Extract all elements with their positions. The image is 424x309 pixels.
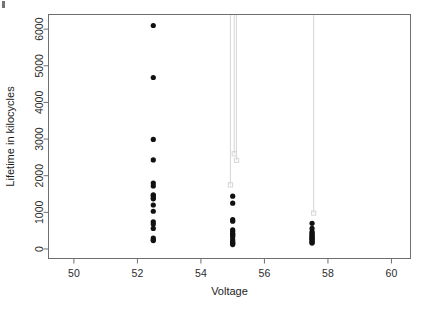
x-tick-label: 52 — [132, 267, 144, 279]
failure-series — [151, 23, 315, 247]
x-tick-label: 54 — [195, 267, 207, 279]
data-point — [151, 23, 156, 28]
x-tick-label: 56 — [259, 267, 271, 279]
data-point — [151, 238, 156, 243]
y-tick-label: 3000 — [33, 127, 45, 151]
data-point — [230, 201, 235, 206]
y-tick-label: 1000 — [33, 201, 45, 225]
data-point — [151, 183, 156, 188]
data-point — [230, 219, 235, 224]
corner-artifact — [2, 1, 5, 8]
x-axis-title: Voltage — [211, 285, 248, 297]
y-tick-label: 6000 — [33, 17, 45, 41]
y-axis-title: Lifetime in kilocycles — [4, 86, 16, 187]
data-point — [230, 194, 235, 199]
data-point — [309, 221, 314, 226]
data-point — [151, 196, 156, 201]
x-axis: 505254565860Voltage — [68, 259, 397, 297]
data-point — [151, 137, 156, 142]
data-point — [151, 202, 156, 207]
data-point — [151, 75, 156, 80]
y-tick-label: 5000 — [33, 54, 45, 78]
censored-series — [228, 15, 315, 216]
y-axis: 0100020003000400050006000Lifetime in kil… — [4, 17, 49, 252]
data-point — [151, 209, 156, 214]
data-point — [151, 157, 156, 162]
y-tick-label: 2000 — [33, 164, 45, 188]
data-point — [230, 242, 235, 247]
plot-frame — [49, 15, 411, 259]
y-tick-label: 4000 — [33, 91, 45, 115]
x-tick-label: 50 — [68, 267, 80, 279]
x-tick-label: 60 — [386, 267, 398, 279]
x-tick-label: 58 — [322, 267, 334, 279]
data-point — [151, 226, 156, 231]
data-point — [309, 241, 314, 246]
plot-canvas: 505254565860Voltage010002000300040005000… — [0, 0, 424, 309]
y-tick-label: 0 — [33, 246, 45, 252]
scatter-plot-figure: 505254565860Voltage010002000300040005000… — [0, 0, 424, 309]
